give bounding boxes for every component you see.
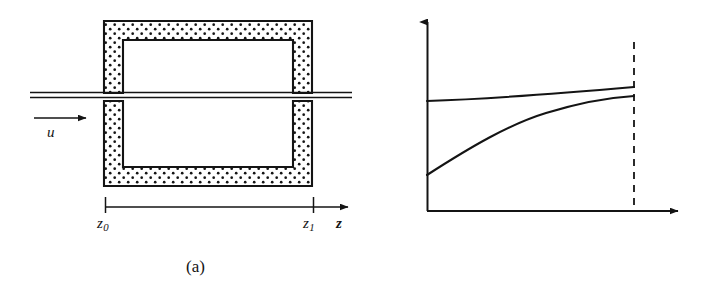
panel-a-caption: (a) (186, 258, 205, 275)
panel-a-tick-label-z1: z1 (303, 216, 315, 233)
panel-b: f(z) x(t, z) z0 z1 z (b) (360, 0, 715, 299)
panel-a-graphic (0, 0, 360, 299)
panel-a: u z0 z1 z (a) (0, 0, 360, 299)
vessel-upper-wall (104, 21, 312, 93)
vessel-lower-wall (104, 101, 312, 186)
x-of-t-z-curve (427, 96, 634, 175)
panel-b-graphic (360, 0, 715, 299)
flow-velocity-label: u (47, 125, 55, 140)
panel-a-axis-variable-label: z (336, 216, 342, 231)
panel-a-tick-label-z0: z0 (97, 216, 109, 233)
panel-a-z-axis (105, 197, 348, 213)
central-duct (30, 93, 352, 98)
figure-root: u z0 z1 z (a) (0, 0, 715, 299)
